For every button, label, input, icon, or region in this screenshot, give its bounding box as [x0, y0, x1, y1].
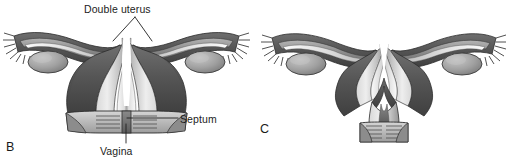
right-ovary-b: [185, 51, 225, 73]
vaginal-septum-b: [122, 111, 131, 133]
inter-horn-cleft-b: [122, 18, 131, 106]
figure-uterine-anomalies: Double uterus Septum Vagina B C: [0, 0, 506, 163]
label-double-uterus: Double uterus: [84, 4, 151, 15]
label-vagina: Vagina: [100, 146, 133, 157]
vagina-c: [360, 122, 408, 142]
uterine-body-c: [369, 102, 399, 124]
leader-double-uterus-right: [135, 17, 152, 41]
illustration-canvas: [0, 0, 506, 163]
left-ovary-b: [28, 51, 68, 73]
panel-letter-b: B: [6, 141, 14, 154]
vagina-and-septum-b: [66, 111, 187, 133]
uterine-cavity-stem-c: [379, 104, 389, 124]
left-ovary-c: [286, 53, 326, 75]
label-septum: Septum: [180, 114, 217, 125]
panel-letter-c: C: [260, 123, 269, 136]
right-ovary-c: [442, 53, 482, 75]
panel-c-bicornuate: [261, 34, 506, 142]
